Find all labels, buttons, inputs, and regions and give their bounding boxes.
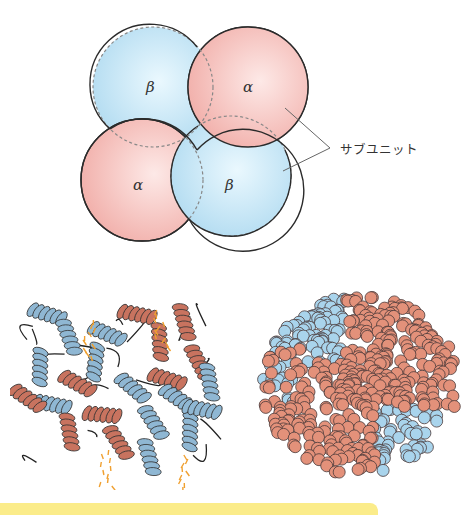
atom-alpha: [352, 464, 364, 476]
heme-group: [186, 471, 190, 476]
ribbon-loop: [200, 419, 221, 439]
alpha-helix: [172, 303, 197, 341]
atom-beta: [431, 415, 443, 427]
beta-helix: [137, 438, 162, 476]
atom-alpha: [262, 355, 274, 367]
heme-group: [99, 482, 101, 487]
atom-alpha: [263, 382, 275, 394]
atom-alpha: [361, 330, 373, 342]
ribbon-loop: [196, 304, 206, 326]
ribbon-loop: [20, 325, 33, 340]
label-alpha-bottom-left: α: [133, 176, 143, 194]
atom-alpha: [289, 441, 301, 453]
atom-alpha: [418, 399, 430, 411]
ribbon-loop: [88, 430, 97, 437]
beta-helix: [198, 362, 220, 402]
space-filling-model: [252, 285, 467, 490]
beta-helix: [112, 371, 153, 405]
ribbon-loop: [23, 455, 37, 462]
heme-group: [112, 486, 116, 490]
beta-helix: [55, 319, 82, 355]
callout-label-subunit: サブユニット: [340, 142, 418, 157]
atom-alpha: [415, 348, 427, 360]
atom-alpha: [333, 466, 345, 478]
heme-group: [103, 470, 104, 475]
ribbon-loop: [127, 321, 145, 342]
ribbon-loop: [106, 348, 119, 367]
label-beta-bottom-right: β: [224, 176, 234, 194]
heme-group: [184, 455, 187, 460]
atom-alpha: [367, 410, 379, 422]
heme-group: [108, 450, 109, 455]
atom-beta: [403, 451, 415, 463]
atom-beta: [410, 428, 422, 440]
subunit-diagram: β α α β サブユニット: [0, 0, 475, 280]
atom-alpha: [280, 381, 292, 393]
atom-alpha: [398, 400, 410, 412]
ribbon-model: [10, 285, 235, 490]
atom-alpha: [448, 401, 460, 413]
atom-alpha: [350, 327, 362, 339]
alpha-helix: [80, 404, 124, 425]
atom-alpha: [285, 369, 297, 381]
atom-alpha: [344, 316, 356, 328]
beta-helix: [137, 404, 171, 441]
label-beta-top-left: β: [145, 78, 155, 96]
atom-alpha: [265, 367, 277, 379]
atom-beta: [393, 432, 405, 444]
atom-beta: [418, 412, 430, 424]
heme-group: [108, 478, 109, 483]
label-alpha-top-right: α: [243, 78, 253, 96]
highlight-band: [0, 503, 378, 515]
alpha-helix: [58, 412, 80, 452]
atom-alpha: [321, 403, 333, 415]
heme-group: [101, 462, 102, 467]
beta-helix: [31, 345, 50, 388]
beta-helix: [181, 410, 200, 453]
atom-alpha: [260, 401, 272, 413]
alpha-helix: [102, 424, 136, 461]
atom-alpha: [279, 349, 291, 361]
heme-group: [110, 458, 111, 463]
atom-alpha: [301, 452, 313, 464]
heme-group: [86, 352, 90, 357]
atom-alpha: [365, 292, 377, 304]
atom-alpha: [278, 428, 290, 440]
ribbon-loop: [116, 319, 123, 325]
heme-group: [156, 314, 157, 319]
ribbon-loop: [32, 329, 37, 344]
heme-group: [101, 454, 103, 459]
